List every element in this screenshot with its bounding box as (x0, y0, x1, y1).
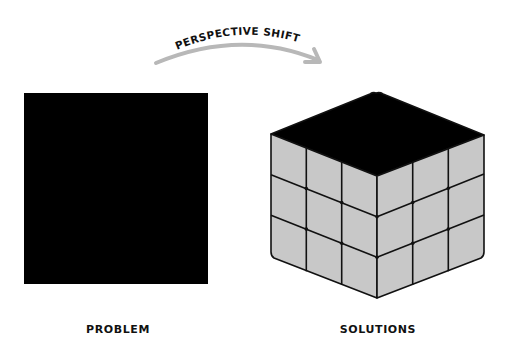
problem-square (24, 93, 208, 284)
solutions-cube (271, 93, 484, 298)
problem-caption: PROBLEM (60, 323, 176, 336)
solutions-caption: SOLUTIONS (318, 323, 438, 336)
diagram-canvas: PERSPECTIVE SHIFT (0, 0, 511, 355)
